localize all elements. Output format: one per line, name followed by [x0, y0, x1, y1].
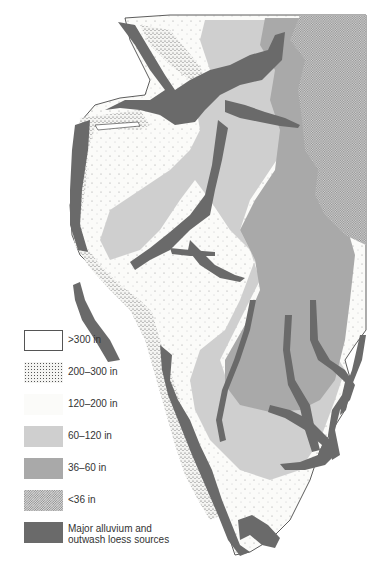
legend-label: <36 in: [68, 494, 96, 505]
legend-label: 60–120 in: [68, 430, 112, 441]
swatch-sources: [24, 522, 63, 543]
legend-item-sources: Major alluvium and outwash loess sources: [24, 522, 184, 554]
legend-item-200-300: 200–300 in: [24, 362, 184, 394]
legend-item-36-60: 36–60 in: [24, 458, 184, 490]
legend-label: 200–300 in: [68, 366, 118, 377]
legend-item-gt300: >300 in: [24, 330, 184, 362]
legend-item-60-120: 60–120 in: [24, 426, 184, 458]
swatch-200-300: [24, 362, 63, 383]
legend-label-line2: outwash loess sources: [68, 534, 169, 545]
legend-label: 120–200 in: [68, 398, 118, 409]
legend-label: Major alluvium and outwash loess sources: [68, 523, 169, 545]
legend-label: 36–60 in: [68, 462, 106, 473]
legend-label-line1: Major alluvium and: [68, 523, 152, 534]
swatch-36-60: [24, 458, 63, 479]
legend: >300 in 200–300 in 120–200 in 60–120 in …: [24, 330, 184, 554]
swatch-60-120: [24, 426, 63, 447]
swatch-gt300: [24, 330, 63, 351]
swatch-lt36: [24, 490, 63, 511]
legend-label: >300 in: [68, 334, 101, 345]
swatch-120-200: [24, 394, 63, 415]
legend-item-lt36: <36 in: [24, 490, 184, 522]
legend-item-120-200: 120–200 in: [24, 394, 184, 426]
